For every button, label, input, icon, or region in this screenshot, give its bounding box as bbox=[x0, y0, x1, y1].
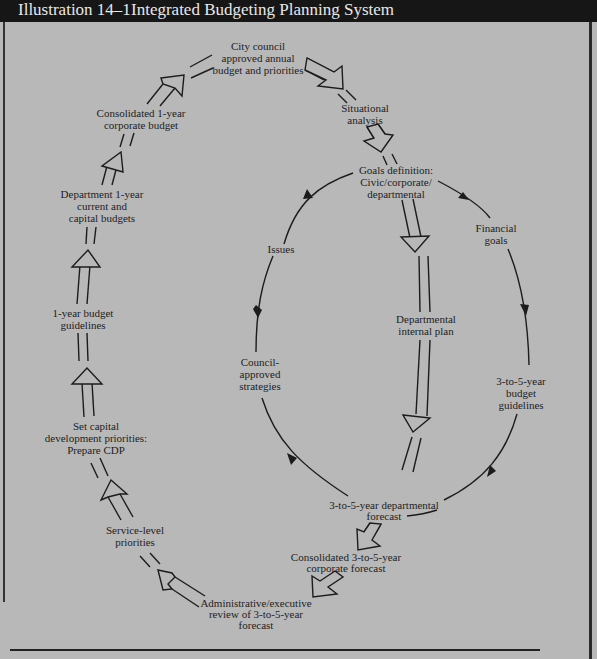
node-1year-budget-guidelines: 1-year budget guidelines bbox=[53, 307, 114, 331]
illustration-page: Illustration 14–1 Integrated Budgeting P… bbox=[0, 0, 597, 659]
svg-text:goals: goals bbox=[484, 234, 507, 246]
svg-text:forecast: forecast bbox=[239, 619, 274, 631]
node-financial-goals: Financial goals bbox=[476, 222, 517, 246]
arrow-goals-to-dept-internal bbox=[401, 199, 430, 312]
svg-text:Set capital: Set capital bbox=[73, 420, 119, 432]
svg-text:budget and priorities: budget and priorities bbox=[212, 64, 303, 76]
arrow-dept-1yr-to-consolidated-1yr bbox=[102, 133, 134, 185]
svg-text:Consolidated 1-year: Consolidated 1-year bbox=[97, 107, 186, 119]
node-city-council: City council approved annual budget and … bbox=[212, 40, 303, 76]
svg-text:Financial: Financial bbox=[476, 222, 517, 234]
svg-text:guidelines: guidelines bbox=[498, 399, 543, 411]
node-3to5-budget-guidelines: 3-to-5-year budget guidelines bbox=[496, 375, 546, 411]
svg-text:departmental: departmental bbox=[367, 188, 424, 200]
node-3to5-departmental-forecast: 3-to-5-year departmental forecast bbox=[329, 499, 439, 522]
svg-text:City council: City council bbox=[231, 40, 285, 52]
svg-text:internal plan: internal plan bbox=[398, 325, 454, 337]
arrow-dept-internal-to-forecast bbox=[402, 340, 430, 472]
arrow-consolidated-1yr-to-council bbox=[147, 55, 213, 106]
svg-text:Civic/corporate/: Civic/corporate/ bbox=[360, 176, 432, 188]
svg-text:forecast: forecast bbox=[367, 510, 402, 522]
node-issues: Issues bbox=[268, 243, 295, 255]
svg-text:Situational: Situational bbox=[341, 102, 389, 114]
arrow-admin-review-to-service-level bbox=[140, 553, 205, 607]
arrow-1yr-guidelines-to-dept-1yr bbox=[72, 227, 100, 304]
arrow-dept-forecast-to-corp-forecast bbox=[357, 523, 381, 550]
svg-text:corporate forecast: corporate forecast bbox=[306, 562, 385, 574]
curve-issues-to-council-strategies bbox=[253, 256, 273, 352]
svg-text:development priorities:: development priorities: bbox=[45, 432, 147, 444]
svg-text:1-year budget: 1-year budget bbox=[53, 307, 114, 319]
svg-text:Council-: Council- bbox=[241, 356, 280, 368]
node-department-1year-budgets: Department 1-year current and capital bu… bbox=[61, 188, 144, 224]
svg-text:capital budgets: capital budgets bbox=[69, 212, 135, 224]
curve-council-strategies-to-dept-forecast bbox=[262, 398, 348, 496]
svg-text:Prepare CDP: Prepare CDP bbox=[67, 444, 125, 456]
node-situational-analysis: Situational analysis bbox=[341, 102, 389, 126]
svg-text:Department 1-year: Department 1-year bbox=[61, 188, 144, 200]
svg-text:Departmental: Departmental bbox=[396, 313, 456, 325]
curve-goals-to-financial-goals bbox=[438, 181, 490, 218]
node-goals-definition: Goals definition: Civic/corporate/ depar… bbox=[359, 164, 433, 200]
budgeting-cycle-diagram: City council approved annual budget and … bbox=[0, 0, 597, 659]
svg-text:analysis: analysis bbox=[347, 114, 382, 126]
node-council-approved-strategies: Council- approved strategies bbox=[239, 356, 281, 392]
arrow-capital-dev-to-1yr-guidelines bbox=[72, 333, 102, 417]
node-administrative-review: Administrative/executive review of 3-to-… bbox=[200, 597, 311, 631]
svg-text:priorities: priorities bbox=[115, 536, 155, 548]
svg-text:approved annual: approved annual bbox=[222, 52, 295, 64]
arrow-corp-forecast-to-admin-review bbox=[312, 571, 343, 597]
node-service-level-priorities: Service-level priorities bbox=[106, 524, 164, 548]
arrow-service-level-to-capital-dev bbox=[91, 458, 133, 520]
svg-text:approved: approved bbox=[240, 368, 281, 380]
curve-goals-to-issues bbox=[284, 173, 353, 244]
arrow-council-to-situational bbox=[305, 58, 356, 103]
svg-text:Service-level: Service-level bbox=[106, 524, 164, 536]
node-departmental-internal-plan: Departmental internal plan bbox=[396, 313, 456, 337]
svg-text:Issues: Issues bbox=[268, 243, 295, 255]
svg-text:guidelines: guidelines bbox=[60, 319, 105, 331]
arrow-situational-to-goals bbox=[364, 124, 397, 165]
curve-financial-to-3to5-guidelines bbox=[508, 249, 529, 365]
svg-text:3-to-5-year: 3-to-5-year bbox=[496, 375, 546, 387]
node-set-capital-development: Set capital development priorities: Prep… bbox=[45, 420, 147, 456]
svg-text:Goals definition:: Goals definition: bbox=[359, 164, 433, 176]
node-consolidated-1year-budget: Consolidated 1-year corporate budget bbox=[97, 107, 186, 131]
svg-text:current and: current and bbox=[77, 200, 127, 212]
node-consolidated-3to5-corporate-forecast: Consolidated 3-to-5-year corporate forec… bbox=[291, 551, 402, 574]
svg-text:budget: budget bbox=[506, 387, 536, 399]
svg-text:corporate budget: corporate budget bbox=[104, 119, 178, 131]
svg-text:strategies: strategies bbox=[239, 380, 281, 392]
curve-3to5-guidelines-to-dept-forecast bbox=[444, 414, 517, 500]
